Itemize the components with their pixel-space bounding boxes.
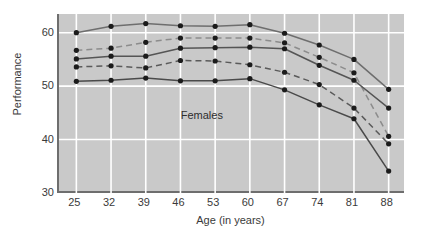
- data-point-series-1-top-solid-46: [178, 23, 183, 28]
- data-point-series-3-middle-solid-81: [351, 78, 356, 83]
- data-point-series-1-top-solid-39: [143, 21, 148, 26]
- data-point-series-4-lower-dashed-53: [213, 58, 218, 63]
- data-point-series-3-middle-solid-25: [74, 56, 79, 61]
- data-point-series-1-top-solid-25: [74, 30, 79, 35]
- data-point-series-5-bottom-solid-39: [143, 76, 148, 81]
- data-point-series-4-lower-dashed-88: [386, 141, 391, 146]
- data-point-series-3-middle-solid-67: [282, 46, 287, 51]
- data-point-series-2-upper-dashed-81: [351, 70, 356, 75]
- series-line-series-4-lower-dashed: [76, 60, 388, 143]
- data-point-series-2-upper-dashed-39: [143, 40, 148, 45]
- data-point-series-2-upper-dashed-53: [213, 35, 218, 40]
- data-point-series-5-bottom-solid-25: [74, 79, 79, 84]
- data-point-series-3-middle-solid-88: [386, 105, 391, 110]
- data-point-series-1-top-solid-67: [282, 31, 287, 36]
- data-point-series-1-top-solid-53: [213, 24, 218, 29]
- data-point-series-4-lower-dashed-39: [143, 65, 148, 70]
- data-point-series-5-bottom-solid-46: [178, 78, 183, 83]
- x-tick-67: 67: [268, 196, 298, 209]
- y-axis-label: Performance: [11, 39, 23, 129]
- data-point-series-5-bottom-solid-60: [247, 76, 252, 81]
- data-point-series-2-upper-dashed-60: [247, 35, 252, 40]
- series-line-series-3-middle-solid: [76, 47, 388, 108]
- data-point-series-5-bottom-solid-67: [282, 87, 287, 92]
- data-point-series-4-lower-dashed-60: [247, 62, 252, 67]
- plot-area: Females: [57, 14, 404, 193]
- data-point-series-2-upper-dashed-46: [178, 35, 183, 40]
- x-tick-88: 88: [372, 196, 402, 209]
- data-point-series-4-lower-dashed-74: [317, 82, 322, 87]
- data-point-series-3-middle-solid-46: [178, 46, 183, 51]
- data-point-series-5-bottom-solid-88: [386, 168, 391, 173]
- x-tick-32: 32: [94, 196, 124, 209]
- data-point-series-1-top-solid-74: [317, 42, 322, 47]
- data-point-series-1-top-solid-81: [351, 57, 356, 62]
- data-point-series-5-bottom-solid-32: [108, 78, 113, 83]
- x-tick-81: 81: [337, 196, 367, 209]
- data-point-series-2-upper-dashed-32: [108, 46, 113, 51]
- series-line-series-2-upper-dashed: [76, 38, 388, 136]
- data-point-series-3-middle-solid-32: [108, 54, 113, 59]
- data-series-layer: [59, 14, 406, 193]
- data-point-series-1-top-solid-88: [386, 87, 391, 92]
- data-point-series-3-middle-solid-39: [143, 54, 148, 59]
- data-point-series-1-top-solid-32: [108, 24, 113, 29]
- y-axis-tick-labels: 60504030: [28, 0, 54, 241]
- annotation-females: Females: [181, 109, 223, 121]
- x-tick-53: 53: [198, 196, 228, 209]
- series-line-series-5-bottom-solid: [76, 78, 388, 171]
- data-point-series-3-middle-solid-74: [317, 63, 322, 68]
- data-point-series-5-bottom-solid-81: [351, 116, 356, 121]
- data-point-series-4-lower-dashed-81: [351, 105, 356, 110]
- data-point-series-2-upper-dashed-25: [74, 48, 79, 53]
- data-point-series-2-upper-dashed-74: [317, 55, 322, 60]
- data-point-series-4-lower-dashed-32: [108, 63, 113, 68]
- x-tick-25: 25: [59, 196, 89, 209]
- chart-figure: 60504030 Performance Females 25323946536…: [0, 0, 421, 241]
- data-point-series-4-lower-dashed-67: [282, 70, 287, 75]
- data-point-series-4-lower-dashed-25: [74, 64, 79, 69]
- y-tick-60: 60: [30, 27, 54, 38]
- data-point-series-2-upper-dashed-88: [386, 134, 391, 139]
- x-axis-label: Age (in years): [57, 214, 404, 226]
- data-point-series-2-upper-dashed-67: [282, 40, 287, 45]
- data-point-series-3-middle-solid-53: [213, 45, 218, 50]
- x-tick-74: 74: [302, 196, 332, 209]
- data-point-series-5-bottom-solid-74: [317, 102, 322, 107]
- y-tick-50: 50: [30, 80, 54, 91]
- x-tick-60: 60: [233, 196, 263, 209]
- data-point-series-5-bottom-solid-53: [213, 78, 218, 83]
- x-tick-46: 46: [163, 196, 193, 209]
- y-tick-30: 30: [30, 187, 54, 198]
- data-point-series-1-top-solid-60: [247, 22, 252, 27]
- x-tick-39: 39: [129, 196, 159, 209]
- data-point-series-4-lower-dashed-46: [178, 58, 183, 63]
- y-tick-40: 40: [30, 134, 54, 145]
- data-point-series-3-middle-solid-60: [247, 45, 252, 50]
- x-axis-tick-labels: 25323946536067748188: [57, 196, 404, 212]
